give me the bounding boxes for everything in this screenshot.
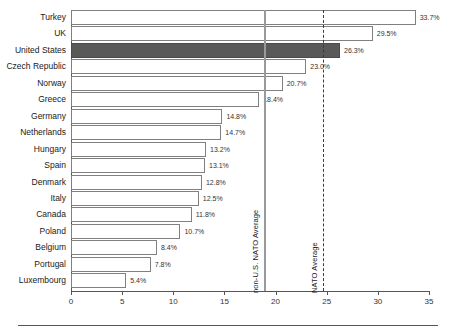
x-tick-mark [429, 291, 430, 295]
bar-value-label: 23.0% [310, 60, 330, 73]
bar-value-label: 14.8% [226, 110, 246, 123]
category-label-denmark: Denmark [0, 175, 66, 190]
bar-row: 12.5% [71, 191, 429, 206]
x-tick-mark [276, 291, 277, 295]
bar-czech-republic [71, 59, 306, 74]
category-label-hungary: Hungary [0, 142, 66, 157]
bar-poland [71, 224, 180, 239]
x-tick-mark [122, 291, 123, 295]
bar-value-label: 12.5% [203, 192, 223, 205]
bar-value-label: 11.8% [196, 208, 215, 221]
category-label-italy: Italy [0, 191, 66, 206]
bar-hungary [71, 142, 206, 157]
bar-row: 11.8% [71, 207, 429, 222]
bar-germany [71, 109, 222, 124]
reference-line-label: non-U.S. NATO Average [251, 210, 260, 293]
bar-value-label: 5.4% [130, 274, 146, 287]
bar-value-label: 13.1% [209, 159, 229, 172]
bar-chart: 33.7%29.5%26.3%23.0%20.7%18.4%14.8%14.7%… [0, 0, 454, 336]
bar-value-label: 20.7% [287, 77, 307, 90]
bar-row: 13.2% [71, 142, 429, 157]
bar-value-label: 10.7% [184, 225, 204, 238]
bar-denmark [71, 175, 202, 190]
category-label-luxembourg: Luxembourg [0, 273, 66, 288]
category-label-greece: Greece [0, 92, 66, 107]
bar-value-label: 12.8% [206, 176, 226, 189]
category-label-united-states: United States [0, 43, 66, 58]
bar-row: 14.7% [71, 125, 429, 140]
category-label-belgium: Belgium [0, 240, 66, 255]
bar-value-label: 13.2% [210, 143, 230, 156]
x-tick-label: 15 [220, 297, 229, 307]
x-tick-label: 5 [120, 297, 124, 307]
bar-row: 26.3% [71, 43, 429, 58]
x-tick-mark [173, 291, 174, 295]
bar-row: 29.5% [71, 26, 429, 41]
category-label-germany: Germany [0, 109, 66, 124]
x-tick-mark [378, 291, 379, 295]
x-tick-label: 0 [69, 297, 73, 307]
category-label-norway: Norway [0, 76, 66, 91]
bar-united-states [71, 43, 340, 58]
bar-row: 20.7% [71, 76, 429, 91]
reference-line-label: NATO Average [310, 242, 319, 293]
bar-row: 5.4% [71, 273, 429, 288]
bar-row: 33.7% [71, 10, 429, 25]
x-tick-label: 10 [169, 297, 178, 307]
bar-row: 12.8% [71, 175, 429, 190]
bar-belgium [71, 240, 157, 255]
bar-netherlands [71, 125, 221, 140]
category-label-canada: Canada [0, 207, 66, 222]
bar-norway [71, 76, 283, 91]
x-axis-line [71, 291, 429, 292]
bar-row: 7.8% [71, 257, 429, 272]
bar-greece [71, 92, 259, 107]
category-label-spain: Spain [0, 158, 66, 173]
footer-divider [18, 325, 438, 326]
bar-row: 8.4% [71, 240, 429, 255]
bar-value-label: 8.4% [161, 241, 177, 254]
bar-row: 18.4% [71, 92, 429, 107]
reference-line-non-us-nato-average [264, 10, 266, 291]
x-tick-label: 20 [271, 297, 280, 307]
category-label-poland: Poland [0, 224, 66, 239]
x-tick-mark [71, 291, 72, 295]
bar-row: 13.1% [71, 158, 429, 173]
bar-canada [71, 207, 192, 222]
bar-value-label: 33.7% [420, 11, 440, 24]
bar-italy [71, 191, 199, 206]
bar-uk [71, 26, 373, 41]
x-tick-label: 35 [425, 297, 434, 307]
bar-spain [71, 158, 205, 173]
x-tick-mark [327, 291, 328, 295]
bar-row: 14.8% [71, 109, 429, 124]
x-tick-label: 25 [322, 297, 331, 307]
bar-row: 10.7% [71, 224, 429, 239]
bar-value-label: 26.3% [344, 44, 364, 57]
category-label-portugal: Portugal [0, 257, 66, 272]
reference-line-nato-average [323, 10, 324, 291]
bar-value-label: 14.7% [225, 126, 245, 139]
category-label-netherlands: Netherlands [0, 125, 66, 140]
bar-turkey [71, 10, 416, 25]
category-label-turkey: Turkey [0, 10, 66, 25]
bar-row: 23.0% [71, 59, 429, 74]
category-label-czech-republic: Czech Republic [0, 59, 66, 74]
bar-value-label: 29.5% [377, 27, 397, 40]
bar-value-label: 7.8% [155, 258, 171, 271]
x-tick-mark [224, 291, 225, 295]
x-tick-label: 30 [373, 297, 382, 307]
bar-luxembourg [71, 273, 126, 288]
category-label-uk: UK [0, 26, 66, 41]
bar-portugal [71, 257, 151, 272]
